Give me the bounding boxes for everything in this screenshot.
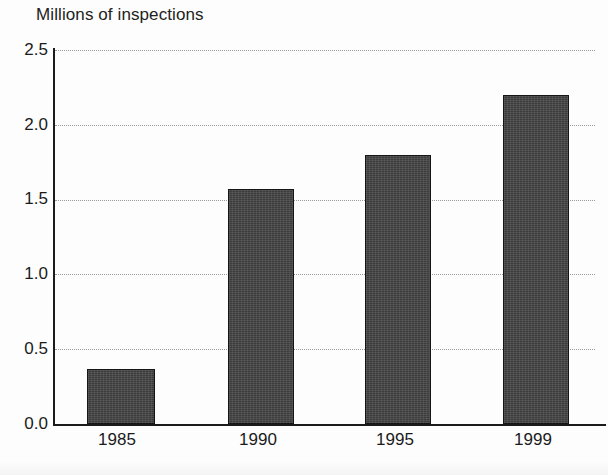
bar-chart: Millions of inspections 0.0 0.5 1.0 1.5 … (0, 0, 608, 475)
x-tick-label: 1990 (198, 430, 318, 450)
bar (87, 369, 155, 424)
x-tick-label: 1995 (335, 430, 455, 450)
page-edge-shading (0, 461, 608, 475)
gridline (55, 50, 595, 51)
y-tick-label: 0.0 (4, 414, 48, 434)
bar (228, 189, 294, 424)
y-tick-label: 0.5 (4, 339, 48, 359)
bar (503, 95, 569, 424)
x-tick-label: 1999 (473, 430, 593, 450)
y-axis-line (53, 48, 55, 426)
chart-title: Millions of inspections (36, 5, 204, 25)
y-tick-label: 2.5 (4, 40, 48, 60)
x-tick-label: 1985 (57, 430, 177, 450)
y-tick-label: 2.0 (4, 115, 48, 135)
x-axis-line (53, 424, 606, 426)
y-tick-label: 1.0 (4, 264, 48, 284)
y-axis-tick-labels: 0.0 0.5 1.0 1.5 2.0 2.5 (0, 0, 48, 475)
y-tick-label: 1.5 (4, 189, 48, 209)
bar (365, 155, 431, 424)
plot-area (55, 50, 595, 424)
